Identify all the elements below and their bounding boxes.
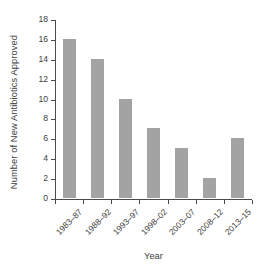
y-axis-tick-label: 8 bbox=[43, 113, 48, 123]
y-axis-tick: 16 bbox=[51, 40, 55, 41]
y-axis-tick: 8 bbox=[51, 119, 55, 120]
bar bbox=[231, 138, 244, 198]
x-axis-line bbox=[55, 199, 252, 200]
x-axis-tick-label: 1998–02 bbox=[139, 206, 170, 237]
x-axis-tick-label: 1983–87 bbox=[54, 206, 85, 237]
plot-area: 0246810121416181983–871988–921993–971998… bbox=[55, 20, 252, 199]
x-axis-tick bbox=[111, 200, 112, 204]
x-axis-tick bbox=[252, 200, 253, 204]
bar bbox=[203, 178, 216, 198]
x-axis-tick bbox=[224, 200, 225, 204]
y-axis-tick-label: 10 bbox=[38, 94, 48, 104]
bar bbox=[119, 99, 132, 198]
x-axis-tick bbox=[168, 200, 169, 204]
x-axis-tick-label: 1988–92 bbox=[82, 206, 113, 237]
y-axis-tick: 18 bbox=[51, 20, 55, 21]
bar bbox=[63, 39, 76, 198]
y-axis-tick-label: 6 bbox=[43, 133, 48, 143]
y-axis-tick-label: 2 bbox=[43, 173, 48, 183]
y-axis-tick-label: 18 bbox=[38, 14, 48, 24]
y-axis-title: Number of New Antibiotics Approved bbox=[9, 12, 19, 212]
y-axis-tick: 10 bbox=[51, 100, 55, 101]
y-axis-tick-label: 0 bbox=[43, 193, 48, 203]
y-axis-tick: 6 bbox=[51, 139, 55, 140]
y-axis-tick: 12 bbox=[51, 80, 55, 81]
y-axis-tick: 4 bbox=[51, 159, 55, 160]
bar bbox=[91, 59, 104, 198]
y-axis-tick-label: 16 bbox=[38, 34, 48, 44]
bar-chart-figure: Number of New Antibiotics Approved 02468… bbox=[0, 0, 274, 273]
y-axis-tick-label: 4 bbox=[43, 153, 48, 163]
y-axis-tick-label: 12 bbox=[38, 74, 48, 84]
y-axis-tick: 14 bbox=[51, 60, 55, 61]
y-axis-tick-label: 14 bbox=[38, 54, 48, 64]
x-axis-tick bbox=[55, 200, 56, 204]
x-axis-tick-label: 1993–97 bbox=[111, 206, 142, 237]
x-axis-tick bbox=[83, 200, 84, 204]
x-axis-tick bbox=[139, 200, 140, 204]
bar bbox=[147, 128, 160, 198]
bar bbox=[175, 148, 188, 198]
x-axis-tick-label: 2003–07 bbox=[167, 206, 198, 237]
y-axis-tick: 2 bbox=[51, 179, 55, 180]
y-axis-line bbox=[55, 20, 56, 200]
x-axis-tick bbox=[196, 200, 197, 204]
x-axis-title: Year bbox=[55, 251, 252, 261]
x-axis-tick-label: 2008–12 bbox=[195, 206, 226, 237]
x-axis-tick-label: 2013–15 bbox=[223, 206, 254, 237]
